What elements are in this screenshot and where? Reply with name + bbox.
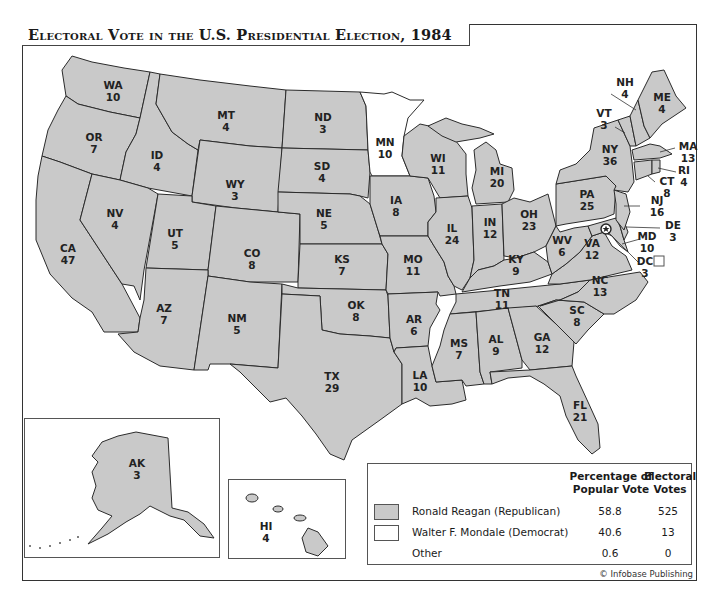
svg-text:FL21: FL21: [573, 399, 588, 423]
svg-text:DE3: DE3: [665, 219, 681, 243]
swatch-democrat: [374, 525, 399, 541]
legend: Percentage ofPopular Vote ElectoralVotes…: [367, 463, 692, 565]
svg-text:NH4: NH4: [616, 76, 634, 100]
svg-text:MD10: MD10: [637, 230, 656, 254]
svg-text:TN11: TN11: [494, 287, 510, 311]
svg-text:MN10: MN10: [375, 136, 394, 160]
svg-text:PA25: PA25: [580, 188, 596, 212]
state-RI[interactable]: [652, 160, 660, 174]
svg-text:LA10: LA10: [413, 369, 429, 393]
legend-row-mondale: Walter F. Mondale (Democrat) 40.6 13: [368, 525, 691, 543]
svg-text:MA13: MA13: [679, 140, 698, 164]
state-MA[interactable]: [632, 144, 672, 160]
svg-text:IL24: IL24: [445, 222, 460, 246]
svg-text:NJ16: NJ16: [650, 194, 665, 218]
svg-text:GA12: GA12: [534, 331, 552, 355]
svg-text:IN12: IN12: [483, 216, 498, 240]
legend-row-reagan: Ronald Reagan (Republican) 58.8 525: [368, 504, 691, 522]
svg-text:WI11: WI11: [430, 152, 446, 176]
swatch-republican: [374, 504, 399, 520]
svg-text:MI20: MI20: [490, 165, 505, 189]
publisher-credit: © Infobase Publishing: [599, 569, 693, 579]
alaska-inset: [24, 418, 220, 558]
svg-text:TX29: TX29: [324, 370, 339, 394]
svg-text:RI4: RI4: [678, 164, 690, 188]
state-IA[interactable]: [370, 176, 436, 236]
map-title: Electoral Vote in the U.S. Presidential …: [22, 24, 470, 46]
svg-text:NC13: NC13: [592, 274, 609, 298]
svg-text:VA12: VA12: [584, 237, 600, 261]
dc-legend-box: [654, 256, 664, 266]
svg-text:CA47: CA47: [60, 242, 77, 266]
legend-row-other: Other 0.6 0: [368, 546, 691, 564]
svg-text:NY36: NY36: [602, 143, 619, 167]
legend-header-ev: ElectoralVotes: [640, 470, 700, 496]
svg-text:MO11: MO11: [403, 253, 422, 277]
hawaii-inset: [228, 479, 346, 559]
svg-text:OH23: OH23: [520, 208, 538, 232]
